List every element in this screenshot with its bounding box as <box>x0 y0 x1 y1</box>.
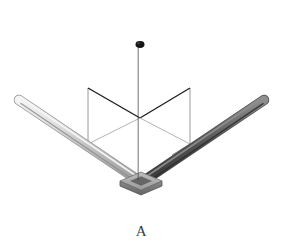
right-rod-shadow <box>146 104 263 183</box>
wireframe-right-lower-edge <box>140 118 190 144</box>
left-rod-shadow <box>21 104 138 184</box>
figure-container: A <box>0 0 283 244</box>
vertical-rod-cap-highlight <box>137 42 140 44</box>
left-rod-highlight <box>20 97 137 176</box>
right-rod-body <box>145 100 264 180</box>
technical-diagram <box>0 0 283 244</box>
right-rod-highlight <box>146 98 263 177</box>
wireframe-left-upper-edge <box>88 88 140 118</box>
vertical-rod <box>136 41 145 184</box>
figure-caption-label: A <box>0 222 283 240</box>
left-rod-body <box>19 100 138 180</box>
wireframe-left-lower-edge <box>88 118 140 144</box>
right-rod <box>145 98 264 184</box>
wireframe-right-upper-edge <box>140 88 190 118</box>
left-rod <box>19 97 138 183</box>
vertical-rod-cap <box>136 41 145 48</box>
